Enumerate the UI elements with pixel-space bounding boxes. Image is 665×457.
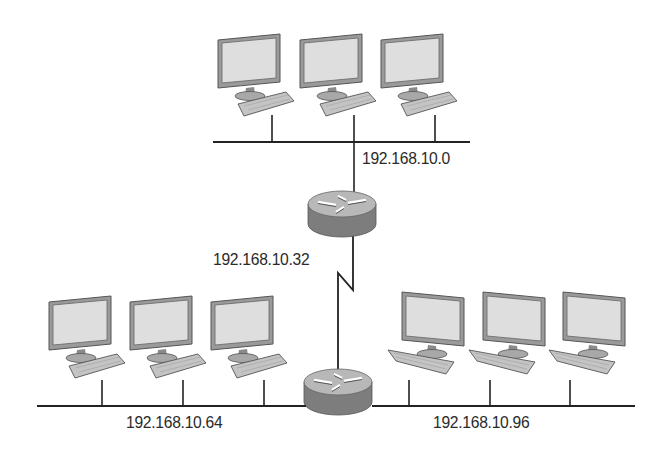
top-lan: [213, 34, 470, 142]
network-diagram: 192.168.10.0 192.168.10.32 192.168.10.64…: [0, 0, 665, 457]
router-icon: [304, 369, 372, 415]
serial-link: [338, 234, 353, 370]
computer-icon: [130, 296, 206, 378]
bottom-right-lan: [388, 292, 625, 406]
bottom-left-lan-label: 192.168.10.64: [126, 413, 222, 433]
bottom-right-lan-label: 192.168.10.96: [433, 413, 529, 433]
diagram-canvas: [0, 0, 665, 457]
computer-icon: [388, 292, 464, 374]
top-lan-label: 192.168.10.0: [362, 149, 450, 169]
computer-icon: [469, 292, 545, 374]
computer-icon: [549, 292, 625, 374]
router-icon: [308, 191, 376, 237]
computer-icon: [218, 34, 294, 116]
computer-icon: [211, 296, 287, 378]
serial-link-label: 192.168.10.32: [213, 250, 309, 270]
computer-icon: [300, 34, 376, 116]
computer-icon: [49, 296, 125, 378]
computer-icon: [381, 34, 457, 116]
bottom-left-lan: [49, 296, 287, 406]
